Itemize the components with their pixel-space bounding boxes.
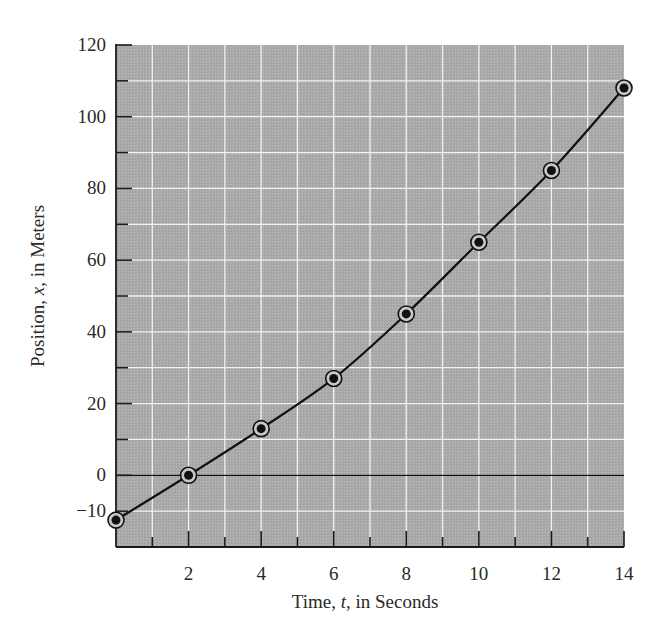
y-tick-label: 100 bbox=[78, 106, 107, 127]
x-tick-label: 12 bbox=[542, 563, 561, 584]
y-axis-title: Position, x, in Meters bbox=[27, 205, 48, 367]
y-tick-label: 120 bbox=[78, 34, 107, 55]
data-point bbox=[253, 421, 269, 437]
y-tick-label: 0 bbox=[97, 464, 107, 485]
y-tick-label: 40 bbox=[87, 321, 106, 342]
y-tick-label: −10 bbox=[76, 500, 106, 521]
x-tick-label: 8 bbox=[402, 563, 412, 584]
y-tick-label: 20 bbox=[87, 393, 106, 414]
data-point bbox=[471, 234, 487, 250]
x-tick-label: 14 bbox=[615, 563, 635, 584]
y-tick-label: 60 bbox=[87, 249, 106, 270]
data-point bbox=[543, 163, 559, 179]
data-point bbox=[398, 306, 414, 322]
data-point bbox=[616, 80, 632, 96]
position-time-chart: 2468101214 −10020406080100120 Time, t, i… bbox=[0, 0, 666, 628]
x-tick-label: 10 bbox=[469, 563, 488, 584]
x-tick-label: 2 bbox=[184, 563, 194, 584]
x-axis-title: Time, t, in Seconds bbox=[292, 591, 439, 612]
data-point bbox=[108, 512, 124, 528]
x-tick-label: 6 bbox=[329, 563, 339, 584]
x-tick-label: 4 bbox=[256, 563, 266, 584]
y-tick-label: 80 bbox=[87, 177, 106, 198]
data-point bbox=[326, 370, 342, 386]
data-point bbox=[181, 467, 197, 483]
